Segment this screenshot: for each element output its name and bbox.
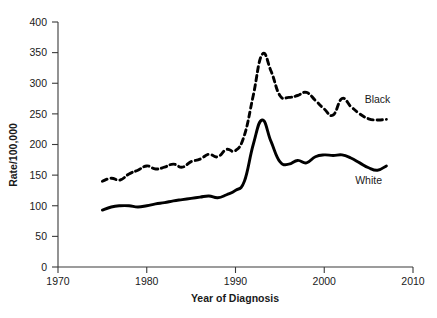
x-axis-title: Year of Diagnosis bbox=[191, 292, 279, 304]
y-tick-label: 350 bbox=[29, 46, 47, 58]
x-tick-label: 1990 bbox=[224, 275, 248, 287]
x-tick-label: 1970 bbox=[46, 275, 70, 287]
y-tick-label: 0 bbox=[41, 261, 47, 273]
x-tick-label: 1980 bbox=[135, 275, 159, 287]
series-label-group: BlackWhite bbox=[355, 93, 391, 186]
y-axis-title: Rate/100,000 bbox=[7, 123, 19, 187]
x-axis: 19701980199020002010 bbox=[46, 267, 425, 287]
y-tick-label: 100 bbox=[29, 200, 47, 212]
y-tick-label: 150 bbox=[29, 169, 47, 181]
y-tick-group: 050100150200250300350400 bbox=[29, 16, 58, 273]
series-line-black bbox=[102, 53, 386, 181]
y-tick-label: 300 bbox=[29, 77, 47, 89]
y-tick-label: 50 bbox=[35, 230, 47, 242]
x-tick-group: 19701980199020002010 bbox=[46, 267, 425, 287]
x-tick-label: 2010 bbox=[401, 275, 425, 287]
series-label-white: White bbox=[355, 174, 382, 186]
y-tick-label: 200 bbox=[29, 138, 47, 150]
chart-figure: 050100150200250300350400 197019801990200… bbox=[0, 0, 437, 318]
y-tick-label: 400 bbox=[29, 16, 47, 28]
y-tick-label: 250 bbox=[29, 108, 47, 120]
series-label-black: Black bbox=[365, 93, 391, 105]
series-group bbox=[102, 53, 386, 210]
x-tick-label: 2000 bbox=[313, 275, 337, 287]
line-chart-svg: 050100150200250300350400 197019801990200… bbox=[0, 0, 437, 318]
y-axis: 050100150200250300350400 bbox=[29, 16, 58, 273]
